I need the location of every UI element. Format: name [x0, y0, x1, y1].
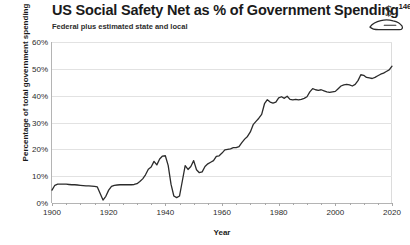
plot-area: 0%10%20%30%40%50%60% 1900192019401960198…	[52, 42, 392, 203]
x-axis-tick-mark	[307, 203, 308, 205]
y-axis-title: Percentage of total government spending	[21, 0, 30, 178]
x-axis-title: Year	[52, 228, 392, 237]
data-series-line	[52, 42, 392, 203]
x-axis-tick-mark	[52, 203, 53, 206]
x-axis-tick-mark	[66, 203, 67, 205]
series-polyline	[52, 66, 392, 200]
x-axis-tick-label: 2020	[383, 208, 401, 217]
x-axis-tick-label: 1980	[270, 208, 288, 217]
x-axis-tick-mark	[265, 203, 266, 205]
x-axis-tick-mark	[109, 203, 110, 206]
x-axis-tick-mark	[321, 203, 322, 205]
x-axis-tick-mark	[392, 203, 393, 206]
x-axis-tick-mark	[137, 203, 138, 205]
chart-subtitle: Federal plus estimated state and local	[52, 22, 187, 31]
x-axis-tick-mark	[208, 203, 209, 205]
x-axis-tick-mark	[364, 203, 365, 205]
x-axis-tick-mark	[123, 203, 124, 205]
x-axis-tick-mark	[350, 203, 351, 205]
y-axis-tick-label: 60%	[32, 38, 48, 47]
x-axis-tick-label: 2000	[326, 208, 344, 217]
x-axis-tick-label: 1920	[100, 208, 118, 217]
chart-screenshot: US Social Safety Net as % of Government …	[0, 0, 410, 245]
x-axis-tick-mark	[222, 203, 223, 206]
x-axis-tick-label: 1960	[213, 208, 231, 217]
y-axis-tick-label: 20%	[32, 145, 48, 154]
svg-text:$: $	[385, 3, 392, 19]
y-axis-tick-label: 10%	[32, 172, 48, 181]
x-axis-tick-mark	[151, 203, 152, 205]
x-axis-tick-mark	[279, 203, 280, 206]
x-axis-tick-mark	[250, 203, 251, 205]
x-axis-tick-mark	[378, 203, 379, 205]
x-axis-tick-mark	[165, 203, 166, 206]
x-axis-tick-mark	[335, 203, 336, 206]
hand-holding-dollar-icon: $	[366, 2, 406, 36]
y-axis-tick-label: 30%	[32, 118, 48, 127]
x-axis-tick-mark	[80, 203, 81, 205]
x-axis-tick-mark	[194, 203, 195, 205]
x-axis-tick-label: 1940	[156, 208, 174, 217]
x-axis-tick-mark	[236, 203, 237, 205]
x-axis-tick-mark	[180, 203, 181, 205]
y-axis-tick-label: 0%	[36, 199, 48, 208]
x-axis-tick-mark	[95, 203, 96, 205]
y-axis-tick-label: 50%	[32, 64, 48, 73]
x-axis-tick-mark	[293, 203, 294, 205]
page-title: US Social Safety Net as % of Government …	[52, 2, 372, 18]
chart-title-text: US Social Safety Net as % of Government …	[52, 2, 399, 18]
y-axis-tick-label: 40%	[32, 91, 48, 100]
x-axis-tick-label: 1900	[43, 208, 61, 217]
